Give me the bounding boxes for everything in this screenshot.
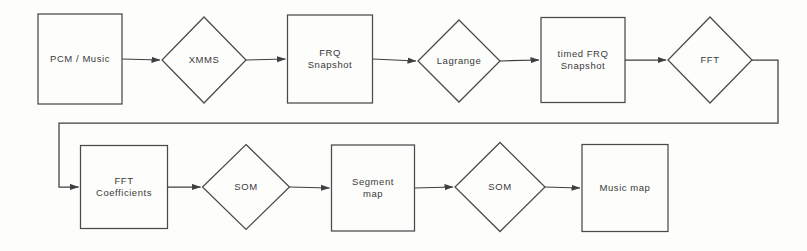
edge-xmms-to-frq-snapshot [246,59,286,60]
node-fft-coefficients[interactable] [81,146,168,229]
edge-pcm-music-to-xmms [122,59,160,60]
node-segment-map[interactable] [332,145,415,231]
node-lagrange[interactable] [418,20,500,102]
node-timed-frq[interactable] [541,18,625,103]
edge-lagrange-to-timed-frq [500,60,539,61]
node-pcm-music[interactable] [38,14,122,104]
flowchart-canvas: PCM / MusicXMMSFRQ SnapshotLagrangetimed… [0,0,807,251]
node-music-map[interactable] [582,145,668,232]
edge-som-2-to-music-map [545,187,580,188]
edge-segment-map-to-som-2 [415,187,454,188]
node-som-2[interactable] [455,143,545,232]
node-xmms[interactable] [162,17,246,103]
node-frq-snapshot[interactable] [288,15,373,103]
node-som-1[interactable] [203,145,290,230]
edge-som-1-to-segment-map [290,187,330,188]
edge-frq-snapshot-to-lagrange [373,59,417,61]
node-fft[interactable] [668,17,752,103]
